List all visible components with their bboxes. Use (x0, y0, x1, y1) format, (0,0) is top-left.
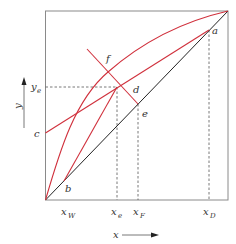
svg-text:e: e (118, 212, 122, 220)
svg-text:y: y (30, 81, 37, 92)
svg-text:x: x (61, 206, 67, 217)
tick-ye: y e (30, 81, 41, 95)
mccabe-thiele-diagram: y x a b c d e f x W x e x F x D y e (0, 0, 236, 244)
point-c-label: c (34, 128, 40, 139)
rectifying-line (46, 30, 210, 133)
svg-text:x: x (133, 206, 139, 217)
svg-text:F: F (139, 212, 146, 220)
svg-text:x: x (203, 206, 209, 217)
tick-xW: x W (61, 206, 76, 220)
point-d-label: d (133, 84, 139, 95)
point-b-label: b (65, 183, 71, 194)
svg-text:e: e (37, 87, 41, 95)
y-axis-label: y (12, 103, 23, 110)
point-a-label: a (212, 25, 218, 36)
diagonal-line (46, 11, 229, 200)
svg-text:D: D (209, 212, 216, 220)
x-axis-arrow (122, 233, 159, 238)
point-f-label: f (105, 53, 112, 64)
x-axis-label: x (113, 229, 119, 240)
svg-text:x: x (111, 206, 117, 217)
tick-xD: x D (203, 206, 216, 220)
y-axis-arrow (22, 77, 27, 128)
tick-xe: x e (111, 206, 122, 220)
svg-text:W: W (68, 212, 76, 220)
point-e-label: e (142, 108, 148, 119)
tick-xF: x F (133, 206, 146, 220)
